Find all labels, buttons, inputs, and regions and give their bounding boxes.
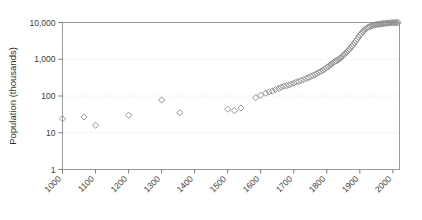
- gridlines-group: [63, 59, 400, 133]
- y-tick-marks-group: [59, 23, 63, 170]
- x-tick-label: 1500: [208, 174, 229, 195]
- x-tick-label: 2000: [373, 174, 394, 195]
- data-point-marker: [225, 106, 231, 112]
- data-point-marker: [81, 114, 87, 120]
- x-tick-label: 1900: [340, 174, 361, 195]
- data-point-marker: [231, 108, 237, 114]
- x-tick-label: 1300: [142, 174, 163, 195]
- x-tick-label: 1200: [109, 174, 130, 195]
- data-point-marker: [125, 112, 131, 118]
- data-point-marker: [159, 97, 165, 103]
- population-scatter-chart: 1101001,00010,000 1000110012001300140015…: [0, 0, 422, 220]
- x-tick-label: 1800: [307, 174, 328, 195]
- y-tick-label: 1,000: [34, 54, 56, 64]
- y-tick-label: 10: [46, 128, 56, 138]
- data-point-marker: [238, 105, 244, 111]
- x-tick-labels-group: 1000110012001300140015001600170018001900…: [42, 174, 393, 195]
- x-tick-label: 1600: [241, 174, 262, 195]
- x-tick-label: 1400: [175, 174, 196, 195]
- y-tick-label: 1: [51, 165, 56, 175]
- x-tick-label: 1000: [42, 174, 63, 195]
- y-axis-title: Population (thousands): [7, 47, 18, 145]
- y-tick-label: 10,000: [30, 18, 56, 28]
- data-point-markers-group: [59, 19, 401, 128]
- data-point-marker: [177, 110, 183, 116]
- x-tick-label: 1700: [274, 174, 295, 195]
- x-tick-label: 1100: [76, 174, 96, 194]
- y-tick-labels-group: 1101001,00010,000: [30, 18, 56, 175]
- data-point-marker: [92, 122, 98, 128]
- chart-canvas: 1101001,00010,000 1000110012001300140015…: [0, 0, 422, 220]
- x-tick-marks-group: [63, 170, 393, 174]
- y-tick-label: 100: [41, 91, 55, 101]
